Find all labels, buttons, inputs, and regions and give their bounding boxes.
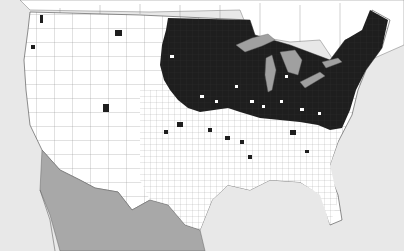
- map-canvas: [0, 0, 404, 251]
- distribution-map: [0, 0, 404, 251]
